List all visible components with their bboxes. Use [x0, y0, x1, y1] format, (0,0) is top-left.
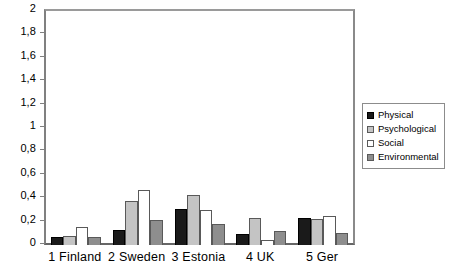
legend-swatch-icon [367, 112, 374, 119]
y-tick-mark [40, 126, 44, 127]
legend-item: Environmental [367, 150, 439, 164]
x-tick-label: 1 Finland [44, 250, 106, 264]
chart-legend: PhysicalPsychologicalSocialEnvironmental [362, 103, 445, 169]
x-axis: 1 Finland2 Sweden3 Estonia4 UK5 Ger [44, 250, 355, 270]
legend-label: Environmental [378, 152, 439, 162]
bar-group [236, 11, 286, 245]
bar [51, 237, 64, 245]
bar [323, 216, 336, 245]
x-tick-label: 4 UK [229, 250, 291, 264]
y-tick-label: 0,4 [0, 190, 36, 201]
bar [261, 240, 274, 245]
bar [236, 234, 249, 245]
bar [212, 224, 225, 245]
y-tick-label: 1 [0, 120, 36, 131]
y-tick-mark [40, 196, 44, 197]
y-tick-label: 0,2 [0, 214, 36, 225]
bar [150, 220, 163, 245]
y-tick-label: 2 [0, 3, 36, 14]
bar [88, 237, 101, 245]
legend-label: Physical [378, 110, 413, 120]
y-tick-label: 1,2 [0, 97, 36, 108]
x-tick-label: 5 Ger [291, 250, 353, 264]
legend-swatch-icon [367, 154, 374, 161]
bar [175, 209, 188, 245]
y-tick-mark [40, 173, 44, 174]
y-tick-label: 0 [0, 237, 36, 248]
y-tick-label: 0,6 [0, 167, 36, 178]
grouped-bar-chart: 21,81,61,41,210,80,60,40,20 1 Finland2 S… [0, 0, 452, 279]
bar-group [298, 11, 348, 245]
y-tick-mark [40, 149, 44, 150]
bar-group [51, 11, 101, 245]
y-tick-label: 1,6 [0, 50, 36, 61]
legend-item: Psychological [367, 122, 439, 136]
bars-container [46, 11, 355, 245]
bar [249, 218, 262, 245]
bar [274, 231, 287, 245]
legend-label: Social [378, 138, 404, 148]
legend-swatch-icon [367, 126, 374, 133]
bar-group [113, 11, 163, 245]
bar [298, 218, 311, 245]
bar [63, 236, 76, 245]
legend-label: Psychological [378, 124, 436, 134]
y-tick-mark [40, 79, 44, 80]
y-tick-label: 1,8 [0, 26, 36, 37]
y-tick-label: 1,4 [0, 73, 36, 84]
legend-item: Social [367, 136, 439, 150]
bar [336, 233, 349, 245]
bar [125, 201, 138, 245]
bar-group [175, 11, 225, 245]
bar [200, 210, 213, 245]
y-tick-mark [40, 103, 44, 104]
y-tick-label: 0,8 [0, 143, 36, 154]
y-tick-mark [40, 56, 44, 57]
y-axis: 21,81,61,41,210,80,60,40,20 [0, 0, 36, 279]
bar [311, 219, 324, 245]
y-tick-mark [40, 220, 44, 221]
bar [76, 227, 89, 245]
bar [187, 195, 200, 245]
y-tick-mark [40, 32, 44, 33]
legend-item: Physical [367, 108, 439, 122]
x-tick-label: 3 Estonia [168, 250, 230, 264]
bar [138, 190, 151, 245]
legend-swatch-icon [367, 140, 374, 147]
y-tick-mark [40, 243, 44, 244]
bar [113, 230, 126, 245]
x-tick-label: 2 Sweden [106, 250, 168, 264]
